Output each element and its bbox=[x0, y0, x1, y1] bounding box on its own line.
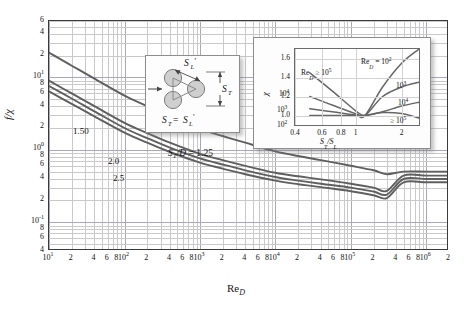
inset-grid-horizontal bbox=[295, 59, 419, 60]
x-tick-label: 2 bbox=[434, 253, 462, 262]
svg-text:=: = bbox=[173, 115, 178, 125]
svg-text:T: T bbox=[228, 89, 232, 96]
curve-label-25: 2.5 bbox=[113, 173, 124, 183]
inset-label-1e4-left: 104 bbox=[279, 89, 289, 98]
svg-text:′: ′ bbox=[195, 57, 197, 66]
y-tick-label: 8 bbox=[6, 223, 44, 232]
inset-label-1e3-left: 103 bbox=[277, 105, 287, 114]
curve-label-20: 2.0 bbox=[108, 156, 119, 166]
inset-label-re-1e2-right: ReD = 102 bbox=[361, 57, 392, 68]
y-tick-label: 4 bbox=[6, 172, 44, 181]
svg-text:S: S bbox=[162, 115, 167, 125]
y-tick-label: 6 bbox=[6, 87, 44, 96]
inset-label-1e3-right: 103 bbox=[396, 81, 406, 90]
svg-text:T: T bbox=[168, 120, 172, 127]
y-tick-label: 6 bbox=[6, 232, 44, 241]
inset-x-tick-label: 0.4 bbox=[283, 128, 307, 137]
inset-grid-vertical bbox=[356, 49, 357, 125]
y-tick-label: 4 bbox=[6, 100, 44, 109]
y-tick-label: 2 bbox=[6, 121, 44, 130]
inset-x-tick-label: 1 bbox=[344, 128, 368, 137]
inset-grid-vertical bbox=[295, 49, 296, 125]
inset-grid-vertical bbox=[322, 49, 323, 125]
x-axis-title: ReD bbox=[0, 282, 472, 294]
y-tick-label: 2 bbox=[6, 194, 44, 203]
inset-x-axis-title: ST/SL bbox=[320, 137, 337, 148]
inset-label-1e4-right: 104 bbox=[398, 98, 408, 107]
y-tick-label: 4 bbox=[6, 27, 44, 36]
svg-text:S: S bbox=[183, 115, 188, 125]
inset-label-re-ge-1e5-left: ReD ≥ 105 bbox=[301, 68, 331, 79]
st-over-d-annotation: ST/D = 1.25 bbox=[168, 148, 213, 158]
svg-text:S: S bbox=[184, 58, 189, 68]
y-tick-label: 6 bbox=[6, 159, 44, 168]
y-tick-label: 2 bbox=[6, 49, 44, 58]
inset-label-1e2-left: 102 bbox=[277, 120, 287, 129]
y-axis-title: f/χ bbox=[2, 109, 14, 120]
y-tick-label: 4 bbox=[6, 245, 44, 254]
inset-grid-vertical bbox=[341, 49, 342, 125]
inset-label-ge-1e5-right: ≥ 105 bbox=[390, 116, 406, 125]
y-tick-label: 8 bbox=[6, 78, 44, 87]
svg-text:S: S bbox=[222, 84, 227, 94]
y-tick-label: 8 bbox=[6, 150, 44, 159]
figure-root: 101246810224681032468104246810524681062 … bbox=[0, 0, 472, 312]
x-axis-title-text: ReD bbox=[227, 282, 245, 294]
flow-arrow-icon bbox=[148, 87, 162, 92]
inset-x-tick-label: 2 bbox=[390, 128, 414, 137]
tube-geometry-diagram: S L ′ S T S T = S L ′ bbox=[145, 55, 240, 133]
curve-label-150: 1.50 bbox=[73, 126, 89, 136]
svg-text:′: ′ bbox=[193, 113, 195, 122]
chi-correction-inset: χ 1.61.41.21.0 0.40.60.812 ReD ≥ 1051041… bbox=[253, 37, 431, 149]
y-tick-label: 6 bbox=[6, 15, 44, 24]
inset-y-tick-label: 1.6 bbox=[264, 53, 290, 62]
inset-y-tick-label: 1.4 bbox=[264, 72, 290, 81]
